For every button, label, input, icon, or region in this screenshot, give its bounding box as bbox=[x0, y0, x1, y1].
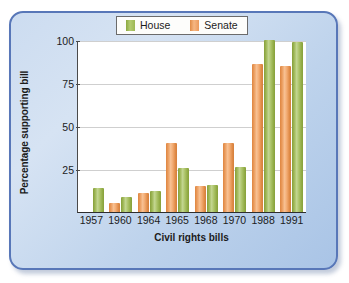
bar-senate-1970 bbox=[223, 143, 234, 212]
y-tick-mark bbox=[76, 84, 80, 85]
plot-area bbox=[77, 41, 306, 213]
x-tick-label-1968: 1968 bbox=[192, 214, 221, 226]
bar-house-1991 bbox=[292, 42, 303, 212]
bar-senate-1964 bbox=[138, 193, 149, 212]
bar-group-1988 bbox=[249, 41, 278, 212]
legend-entry-house: House bbox=[126, 20, 170, 31]
bar-group-1991 bbox=[278, 41, 307, 212]
bar-groups bbox=[78, 41, 306, 212]
bar-house-1964 bbox=[150, 191, 161, 212]
legend-label-senate: Senate bbox=[204, 20, 237, 31]
bar-house-1960 bbox=[121, 197, 132, 212]
chart-panel: House Senate Percentage supporting bill … bbox=[9, 11, 338, 270]
bar-group-1965 bbox=[164, 41, 193, 212]
x-axis-ticks: 19571960196419651968197019881991 bbox=[77, 214, 306, 226]
y-tick-label: 25 bbox=[50, 164, 74, 176]
bar-house-1968 bbox=[207, 185, 218, 212]
bar-senate-1991 bbox=[280, 66, 291, 212]
legend-entry-senate: Senate bbox=[190, 20, 237, 31]
y-axis-label: Percentage supporting bill bbox=[19, 41, 33, 224]
bar-group-1960 bbox=[107, 41, 136, 212]
x-tick-label-1957: 1957 bbox=[77, 214, 106, 226]
house-color-swatch bbox=[126, 20, 135, 31]
x-tick-label-1960: 1960 bbox=[106, 214, 135, 226]
bar-house-1970 bbox=[235, 167, 246, 212]
bar-senate-1968 bbox=[195, 186, 206, 212]
bar-group-1968 bbox=[192, 41, 221, 212]
bar-senate-1965 bbox=[166, 143, 177, 212]
senate-color-swatch bbox=[190, 20, 199, 31]
x-tick-label-1991: 1991 bbox=[277, 214, 306, 226]
bar-senate-1988 bbox=[252, 64, 263, 212]
plot-wrapper: Percentage supporting bill 255075100 195… bbox=[54, 41, 306, 224]
x-tick-label-1970: 1970 bbox=[220, 214, 249, 226]
bar-house-1957 bbox=[93, 188, 104, 212]
chart-legend: House Senate bbox=[116, 16, 248, 35]
bar-house-1988 bbox=[264, 40, 275, 212]
y-tick-label: 100 bbox=[50, 35, 74, 47]
x-tick-label-1988: 1988 bbox=[249, 214, 278, 226]
y-tick-label: 75 bbox=[50, 78, 74, 90]
legend-label-house: House bbox=[140, 20, 170, 31]
bar-group-1957 bbox=[78, 41, 107, 212]
bar-house-1965 bbox=[178, 168, 189, 212]
y-tick-mark bbox=[76, 41, 80, 42]
x-axis-label: Civil rights bills bbox=[77, 232, 306, 243]
x-tick-label-1965: 1965 bbox=[163, 214, 192, 226]
bar-senate-1960 bbox=[109, 203, 120, 212]
y-tick-mark bbox=[76, 170, 80, 171]
bar-group-1970 bbox=[221, 41, 250, 212]
y-tick-label: 50 bbox=[50, 121, 74, 133]
x-tick-label-1964: 1964 bbox=[134, 214, 163, 226]
bar-group-1964 bbox=[135, 41, 164, 212]
y-tick-mark bbox=[76, 127, 80, 128]
